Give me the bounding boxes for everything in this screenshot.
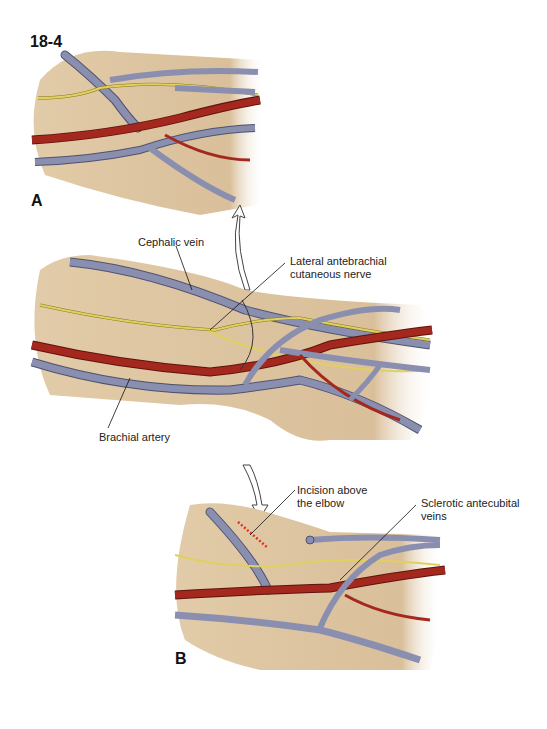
label-sclerotic-line2: veins [421,510,519,523]
figure-number: 18-4 [30,33,62,51]
label-lateral-nerve-line1: Lateral antebrachial [290,255,387,268]
panel-label-b: B [175,650,187,668]
label-cephalic-vein: Cephalic vein [138,236,204,249]
panel-b-illustration [175,490,445,670]
label-sclerotic-line1: Sclerotic antecubital [421,497,519,510]
arrow-to-panel-a [232,205,250,290]
label-lateral-nerve-line2: cutaneous nerve [290,268,387,281]
anatomy-illustration [0,0,547,729]
label-sclerotic-veins: Sclerotic antecubital veins [421,497,519,523]
panel-a-illustration [32,51,265,215]
label-incision: Incision above the elbow [297,484,367,510]
label-brachial-artery: Brachial artery [99,431,170,444]
label-incision-line2: the elbow [297,497,367,510]
label-lateral-nerve: Lateral antebrachial cutaneous nerve [290,255,387,281]
label-incision-line1: Incision above [297,484,367,497]
panel-label-a: A [31,192,43,210]
